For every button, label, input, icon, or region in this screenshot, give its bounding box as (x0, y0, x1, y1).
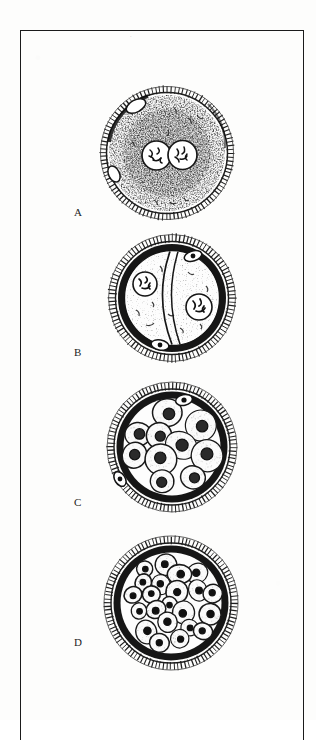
stage-a-drawing (96, 82, 244, 226)
stage-label-b: B (74, 347, 82, 358)
figure-stage-a (96, 82, 244, 226)
figure-stage-b (100, 228, 248, 374)
figure-stage-c (98, 375, 250, 523)
stage-label-a: A (74, 207, 82, 218)
stage-label-c: C (74, 497, 82, 508)
stage-d-drawing (97, 530, 249, 680)
stage-label-d: D (74, 637, 82, 648)
stage-b-drawing (100, 228, 248, 374)
figure-stage-d (97, 530, 249, 680)
stage-c-drawing (98, 375, 250, 523)
